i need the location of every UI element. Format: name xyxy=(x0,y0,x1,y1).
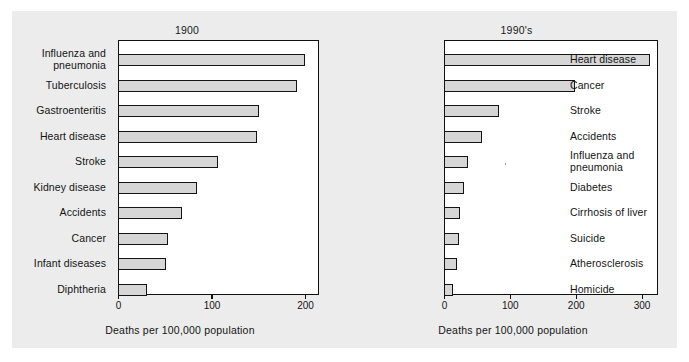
bar xyxy=(444,284,453,296)
bar xyxy=(118,207,182,219)
bar xyxy=(444,233,459,245)
category-label: Suicide xyxy=(570,225,680,251)
bar-series-1900 xyxy=(119,41,318,294)
category-label: Influenza andpneumonia xyxy=(570,149,680,175)
x-axis-title-1900: Deaths per 100,000 population xyxy=(12,324,344,336)
bar xyxy=(444,156,468,168)
chart-panel-1900: 1900 Influenza andpneumoniaTuberculosisG… xyxy=(12,11,344,348)
x-tick-label: 0 xyxy=(116,300,122,311)
category-label: Gastroenteritis xyxy=(6,98,106,124)
bar xyxy=(118,156,218,168)
category-label: Stroke xyxy=(570,98,680,124)
category-label-text: Diabetes xyxy=(570,181,612,193)
bar-row xyxy=(119,48,318,74)
bar-row xyxy=(119,252,318,278)
category-label-text: Cirrhosis of liver xyxy=(570,206,647,218)
x-tick-label: 200 xyxy=(568,300,585,311)
category-label-text: Infant diseases xyxy=(34,257,106,269)
category-label-text: Tuberculosis xyxy=(46,79,106,91)
category-label: Diphtheria xyxy=(6,276,106,302)
bar-row xyxy=(119,226,318,252)
x-axis-1990s: 0100200300 xyxy=(444,295,658,317)
bar xyxy=(444,258,457,270)
bar xyxy=(118,54,305,66)
bar-row xyxy=(119,201,318,227)
category-label-text: Influenza andpneumonia xyxy=(42,47,106,72)
category-label-text: Stroke xyxy=(75,155,106,167)
category-label: Atherosclerosis xyxy=(570,251,680,277)
x-tick-label: 100 xyxy=(204,300,221,311)
bar-row xyxy=(119,124,318,150)
bar xyxy=(118,182,197,194)
category-label: Cancer xyxy=(6,225,106,251)
x-tick xyxy=(510,295,511,299)
print-speck xyxy=(505,163,506,165)
bar-row xyxy=(119,73,318,99)
bar xyxy=(118,105,259,117)
bar xyxy=(118,80,297,92)
bar-row xyxy=(119,99,318,125)
bar xyxy=(444,105,499,117)
chart-panel-1990s: 1990's Heart diseaseCancerStrokeAccident… xyxy=(344,11,676,348)
category-label-text: Cancer xyxy=(72,232,106,244)
x-axis-title-1990s: Deaths per 100,000 population xyxy=(344,324,676,336)
category-label-text: Kidney disease xyxy=(33,181,106,193)
chart-title-1900: 1900 xyxy=(12,24,344,36)
x-tick xyxy=(576,295,577,299)
chart-title-1990s: 1990's xyxy=(344,24,676,36)
category-label: Kidney disease xyxy=(6,174,106,200)
category-label-text: Diphtheria xyxy=(57,283,106,295)
category-label-text: Accidents xyxy=(60,206,106,218)
category-label-text: Homicide xyxy=(570,283,615,295)
category-label-text: Suicide xyxy=(570,232,605,244)
category-labels-1900: Influenza andpneumoniaTuberculosisGastro… xyxy=(12,40,112,295)
plot-area-1900 xyxy=(118,40,319,295)
category-label: Heart disease xyxy=(6,123,106,149)
category-label: Cirrhosis of liver xyxy=(570,200,680,226)
category-label: Influenza andpneumonia xyxy=(6,47,106,73)
bar-row xyxy=(119,175,318,201)
category-label: Infant diseases xyxy=(6,251,106,277)
category-label: Stroke xyxy=(6,149,106,175)
category-label: Accidents xyxy=(6,200,106,226)
bar xyxy=(444,207,460,219)
x-tick xyxy=(211,295,212,299)
category-label: Tuberculosis xyxy=(6,72,106,98)
bar xyxy=(444,182,464,194)
category-label-text: Cancer xyxy=(570,79,604,91)
category-label-text: Atherosclerosis xyxy=(570,257,643,269)
category-label-text: Heart disease xyxy=(570,53,636,65)
category-label-text: Gastroenteritis xyxy=(36,104,106,116)
category-label: Heart disease xyxy=(570,47,680,73)
bar xyxy=(118,258,166,270)
category-label-text: Influenza andpneumonia xyxy=(570,149,634,174)
x-tick-label: 0 xyxy=(442,300,448,311)
x-tick xyxy=(444,295,445,299)
x-tick xyxy=(305,295,306,299)
x-tick xyxy=(642,295,643,299)
bar-row xyxy=(119,150,318,176)
category-label: Cancer xyxy=(570,72,680,98)
x-tick-label: 200 xyxy=(297,300,314,311)
x-axis-1900: 0100200 xyxy=(118,295,319,317)
x-tick xyxy=(118,295,119,299)
bar xyxy=(118,233,168,245)
bar xyxy=(444,131,482,143)
category-labels-1990s: Heart diseaseCancerStrokeAccidentsInflue… xyxy=(564,40,674,295)
category-label-text: Heart disease xyxy=(40,130,106,142)
bar xyxy=(444,80,575,92)
category-label-text: Stroke xyxy=(570,104,601,116)
bar xyxy=(118,131,257,143)
bar xyxy=(118,284,147,296)
category-label: Diabetes xyxy=(570,174,680,200)
category-label: Accidents xyxy=(570,123,680,149)
figure-panel: 1900 Influenza andpneumoniaTuberculosisG… xyxy=(12,11,677,348)
x-tick-label: 300 xyxy=(634,300,651,311)
category-label-text: Accidents xyxy=(570,130,616,142)
x-tick-label: 100 xyxy=(502,300,519,311)
